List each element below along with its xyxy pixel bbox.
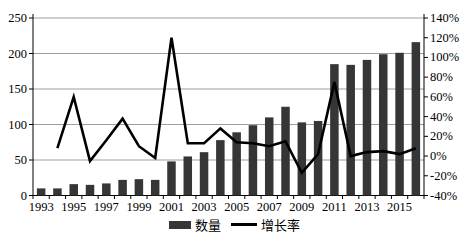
left-axis-tick-label: 0: [21, 189, 27, 203]
right-axis-tick-label: 60%: [430, 90, 453, 104]
left-axis-tick-label: 250: [8, 11, 27, 25]
bar-2008: [281, 107, 290, 196]
left-axis-tick-label: 100: [8, 118, 27, 132]
x-axis-tick-label: 2001: [159, 200, 184, 214]
bar-2003: [200, 152, 209, 195]
bar-series-swatch-icon: [169, 221, 191, 229]
bar-2016: [412, 42, 421, 195]
bar-1995: [69, 184, 78, 195]
chart-legend: 数量 增长率: [0, 215, 469, 234]
bar-1994: [53, 188, 62, 195]
bar-1999: [135, 179, 144, 195]
line-series-swatch-icon: [231, 223, 257, 226]
right-axis-tick-label: 100%: [430, 50, 459, 64]
bar-2014: [379, 54, 388, 195]
legend-item-growth-rate: 增长率: [231, 215, 300, 234]
bar-2002: [184, 156, 193, 195]
legend-label-quantity: 数量: [195, 215, 221, 234]
bar-2012: [346, 65, 355, 196]
bar-2000: [151, 180, 160, 196]
right-axis-tick-label: 20%: [430, 129, 453, 143]
bar-2004: [216, 140, 225, 195]
x-axis-tick-label: 1999: [126, 200, 151, 214]
right-axis-tick-label: -20%: [430, 169, 457, 183]
bar-1997: [102, 183, 111, 195]
bar-2013: [363, 60, 372, 196]
bar-2006: [249, 125, 258, 195]
right-axis-tick-label: 120%: [430, 31, 459, 45]
bar-2009: [298, 122, 307, 195]
bar-2015: [395, 53, 404, 196]
bar-2001: [167, 161, 176, 195]
x-axis-tick-label: 1993: [29, 200, 54, 214]
right-axis-tick-label: -40%: [430, 189, 457, 203]
combo-chart: 050100150200250-40%-20%0%20%40%60%80%100…: [0, 0, 469, 242]
x-axis-tick-label: 2009: [289, 200, 314, 214]
x-axis-tick-label: 2015: [387, 200, 412, 214]
legend-label-growth-rate: 增长率: [261, 215, 300, 234]
bar-1996: [86, 185, 95, 196]
x-axis-tick-label: 2005: [224, 200, 249, 214]
x-axis-tick-label: 1997: [94, 200, 119, 214]
left-axis-tick-label: 50: [15, 153, 28, 167]
x-axis-tick-label: 2013: [354, 200, 379, 214]
chart-canvas: 050100150200250-40%-20%0%20%40%60%80%100…: [0, 0, 469, 242]
x-axis-tick-label: 2003: [192, 200, 217, 214]
right-axis-tick-label: 0%: [430, 149, 447, 163]
right-axis-tick-label: 40%: [430, 110, 453, 124]
bar-1998: [118, 180, 127, 196]
bar-1993: [37, 188, 46, 195]
x-axis-tick-label: 2011: [322, 200, 347, 214]
right-axis-tick-label: 140%: [430, 11, 459, 25]
x-axis-tick-label: 1995: [61, 200, 86, 214]
x-axis-tick-label: 2007: [257, 200, 282, 214]
bar-2007: [265, 117, 274, 195]
left-axis-tick-label: 200: [8, 47, 27, 61]
right-axis-tick-label: 80%: [430, 70, 453, 84]
legend-item-quantity: 数量: [169, 215, 221, 234]
left-axis-tick-label: 150: [8, 82, 27, 96]
